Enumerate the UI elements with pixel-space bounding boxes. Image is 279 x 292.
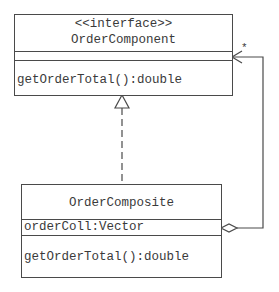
name-compartment: <<interface>> OrderComponent <box>15 15 232 51</box>
aggregation-line <box>232 57 263 228</box>
attribute-compartment <box>15 51 232 60</box>
operation-item: getOrderTotal():double <box>24 250 189 264</box>
attribute-compartment: orderColl:Vector <box>22 219 221 235</box>
class-name: OrderComponent <box>15 33 232 47</box>
multiplicity-label: * <box>241 42 248 54</box>
class-name: OrderComposite <box>22 196 221 210</box>
class-box-order-component[interactable]: <<interface>> OrderComponent getOrderTot… <box>14 14 233 96</box>
class-box-order-composite[interactable]: OrderComposite orderColl:Vector getOrder… <box>21 184 222 278</box>
realization-triangle-icon <box>115 95 129 108</box>
aggregation-diamond-icon <box>221 224 237 232</box>
operation-item: getOrderTotal():double <box>17 73 182 87</box>
uml-diagram: * <<interface>> OrderComponent getOrderT… <box>0 0 279 292</box>
name-compartment: OrderComposite <box>22 185 221 219</box>
operation-compartment: getOrderTotal():double <box>22 235 221 277</box>
attribute-item: orderColl:Vector <box>24 220 144 234</box>
stereotype-label: <<interface>> <box>15 17 232 31</box>
operation-compartment: getOrderTotal():double <box>15 60 232 95</box>
